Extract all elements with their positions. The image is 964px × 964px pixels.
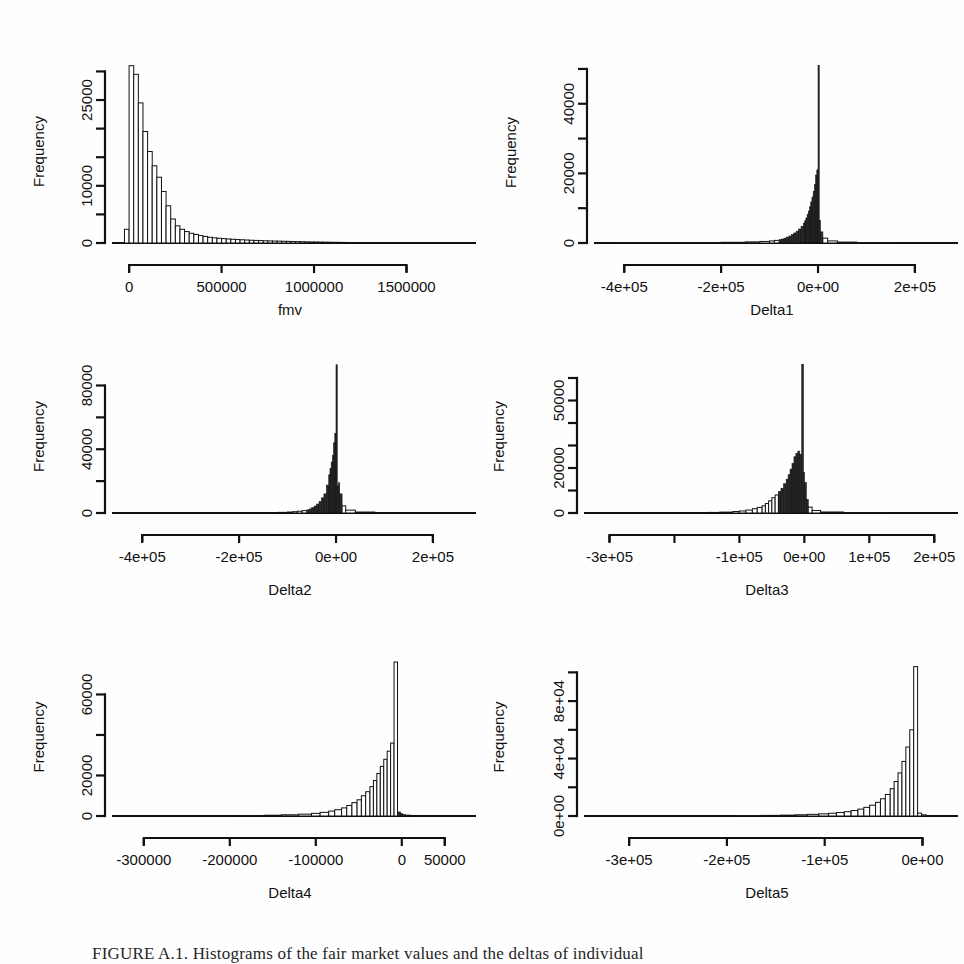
histogram-bar xyxy=(245,240,250,243)
histogram-bar xyxy=(317,504,319,513)
histogram-bar xyxy=(914,667,918,816)
histogram-bar xyxy=(870,805,876,816)
x-tick-label: -4e+05 xyxy=(119,548,166,565)
histogram-bar xyxy=(836,813,844,816)
histogram-bar xyxy=(858,809,864,816)
x-axis-title: Delta2 xyxy=(268,581,311,598)
histogram-bar xyxy=(794,233,796,243)
histogram-bar xyxy=(319,242,324,243)
histogram-bar xyxy=(323,242,328,243)
histogram-delta2: 04000080000Frequency-4e+05-2e+050e+002e+… xyxy=(0,330,482,620)
histogram-bar xyxy=(312,508,314,513)
histogram-delta4: 02000060000Frequency-300000-200000-10000… xyxy=(0,620,482,930)
histogram-bar xyxy=(171,219,176,243)
panel-delta3: 02000050000Frequency-3e+05-1e+050e+001e+… xyxy=(482,330,964,620)
histogram-bar xyxy=(821,512,844,513)
x-tick-label: -100000 xyxy=(288,851,343,868)
y-tick-label: 0 xyxy=(78,239,95,247)
histogram-delta5: 0e+004e+048e+04Frequency-3e+05-2e+05-1e+… xyxy=(482,620,964,930)
histogram-bar xyxy=(720,512,733,513)
histogram-bar xyxy=(707,512,720,513)
histogram-bar xyxy=(779,240,781,243)
histogram-bar xyxy=(781,488,784,513)
histogram-bar xyxy=(829,813,837,816)
histogram-bar xyxy=(405,815,410,816)
histogram-bar xyxy=(346,510,356,513)
x-tick-label: -2e+05 xyxy=(698,278,745,295)
histogram-bar xyxy=(761,815,781,816)
histogram-delta1: 02000040000Frequency-4e+05-2e+050e+002e+… xyxy=(482,0,964,330)
y-tick-label: 0 xyxy=(78,509,95,517)
histogram-bar xyxy=(185,232,190,243)
histogram-bar xyxy=(299,814,312,816)
histogram-bar xyxy=(335,810,342,816)
histogram-bar xyxy=(819,814,829,816)
histogram-bar xyxy=(291,242,296,243)
histogram-bar xyxy=(784,238,786,243)
y-tick-label: 50000 xyxy=(550,380,567,422)
y-axis-title: Frequency xyxy=(502,117,519,188)
histogram-bars xyxy=(278,365,375,513)
y-axis-title: Frequency xyxy=(30,116,47,187)
histogram-bar xyxy=(342,242,347,243)
x-tick-label: 500000 xyxy=(197,278,247,295)
histogram-bar xyxy=(807,814,819,816)
histogram-bar xyxy=(377,773,380,816)
x-tick-label: 0 xyxy=(398,851,406,868)
histogram-bar xyxy=(309,242,314,243)
histogram-bar xyxy=(272,241,277,243)
y-tick-label: 8e+04 xyxy=(550,680,567,722)
histogram-bar xyxy=(143,131,148,243)
y-tick-label: 20000 xyxy=(550,447,567,489)
x-tick-label: -3e+05 xyxy=(606,851,653,868)
panel-fmv: 01000025000Frequency05000001000000150000… xyxy=(0,0,482,330)
histogram-bar xyxy=(203,236,208,243)
histogram-bar xyxy=(300,242,305,243)
x-tick-label: 0 xyxy=(125,278,133,295)
histogram-bar xyxy=(217,238,222,243)
histogram-bar xyxy=(305,242,310,243)
histogram-bar xyxy=(746,510,752,513)
histogram-bar xyxy=(808,507,812,513)
histogram-bar xyxy=(357,800,361,816)
histogram-bar xyxy=(157,177,162,243)
histogram-bar xyxy=(782,239,784,243)
y-tick-label: 40000 xyxy=(78,428,95,470)
histogram-bar xyxy=(391,743,394,816)
y-tick-label: 25000 xyxy=(78,79,95,121)
histogram-bar xyxy=(249,240,254,243)
histogram-bar xyxy=(268,241,273,243)
histogram-bar xyxy=(180,229,185,243)
y-tick-label: 20000 xyxy=(78,755,95,797)
figure-caption-area: FIGURE A.1. Histograms of the fair marke… xyxy=(0,930,964,964)
histogram-bar xyxy=(795,815,807,816)
x-tick-label: -2e+05 xyxy=(216,548,263,565)
histogram-bar xyxy=(194,234,199,243)
histogram-bar xyxy=(292,512,297,513)
histogram-bar xyxy=(302,511,307,513)
histogram-bar xyxy=(277,241,282,243)
histogram-bar xyxy=(823,238,828,243)
histogram-bar xyxy=(347,805,352,816)
x-tick-label: 1500000 xyxy=(377,278,435,295)
histogram-bar xyxy=(212,238,217,243)
x-tick-label: 2e+05 xyxy=(412,548,454,565)
histogram-bar xyxy=(876,802,881,816)
histogram-bar xyxy=(129,66,134,243)
histogram-bar xyxy=(198,236,203,243)
histogram-bar xyxy=(329,811,335,816)
histogram-delta3: 02000050000Frequency-3e+05-1e+050e+001e+… xyxy=(482,330,964,620)
x-tick-label: 0e+00 xyxy=(797,278,839,295)
y-tick-label: 60000 xyxy=(78,674,95,716)
histogram-bar xyxy=(812,511,820,513)
histogram-bar xyxy=(152,166,157,243)
histogram-bar xyxy=(844,812,851,816)
y-axis-title: Frequency xyxy=(30,401,47,472)
histogram-bar xyxy=(898,773,902,816)
histogram-bar xyxy=(733,512,739,513)
histogram-bar xyxy=(906,747,910,816)
histogram-bar xyxy=(922,815,927,816)
histogram-bar xyxy=(739,511,745,513)
histogram-bar xyxy=(352,803,357,816)
histogram-panel-grid: 01000025000Frequency05000001000000150000… xyxy=(0,0,964,930)
